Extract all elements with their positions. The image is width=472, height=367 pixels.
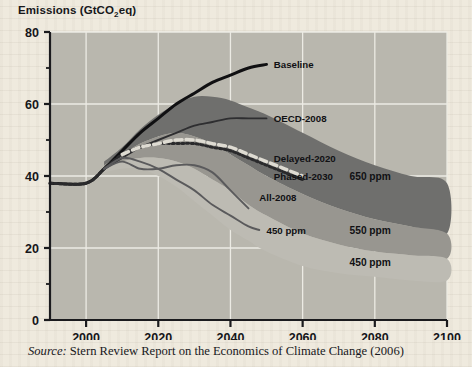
annotation-phased-2030-3: Phased-2030 [274,171,333,182]
y-tick-label-80: 80 [25,26,39,40]
caption-source-label: Source: [28,344,67,358]
annotation-delayed-2020-2: Delayed-2020 [274,153,336,164]
x-tick-label-2020: 2020 [144,331,172,340]
annotation-550-ppm-7: 550 ppm [350,225,391,236]
y-tick-label-40: 40 [25,170,39,184]
figure-caption: Source: Stern Review Report on the Econo… [28,344,404,359]
annotation-baseline-0: Baseline [274,59,314,70]
annotation-all-2008-4: All-2008 [259,192,297,203]
x-tick-label-2040: 2040 [217,331,245,340]
chart-plot-area: 020406080200020202040206020802100Baselin… [0,0,472,340]
annotation-oecd-2008-1: OECD-2008 [274,113,327,124]
annotation-650-ppm-6: 650 ppm [350,171,391,182]
x-tick-label-2080: 2080 [361,331,389,340]
x-tick-label-2000: 2000 [72,331,100,340]
x-tick-label-2060: 2060 [289,331,317,340]
annotation-450-ppm-8: 450 ppm [350,257,391,268]
y-tick-label-60: 60 [25,98,39,112]
y-tick-label-0: 0 [32,314,39,328]
annotation-450-ppm-5: 450 ppm [267,225,307,236]
x-tick-label-2100: 2100 [433,331,461,340]
y-tick-label-20: 20 [25,242,39,256]
caption-source-text: Stern Review Report on the Economics of … [70,344,404,358]
emissions-pathways-figure: Emissions (GtCO2eq) 02040608020002020204… [0,0,472,367]
